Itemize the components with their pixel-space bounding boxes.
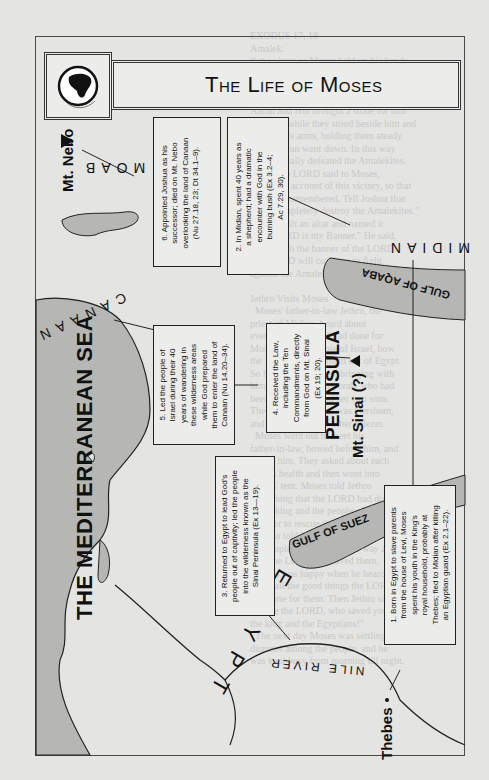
callout-6-text: 6. Appointed Joshua as his successor; di…: [160, 122, 202, 264]
mt-sinai-marker: [350, 355, 360, 367]
label-mt-nebo: Mt. Nebo: [59, 129, 76, 192]
callout-4-text: 4. Received the Law, including the Ten C…: [271, 326, 323, 430]
callout-5: 5. Led the people of Israel during their…: [153, 325, 235, 445]
globe-box: [44, 52, 112, 120]
callout-6: 6. Appointed Joshua as his successor; di…: [153, 117, 221, 267]
callout-3: 3. Returned to Egypt to lead God's peopl…: [215, 456, 275, 616]
label-thebes: Thebes: [378, 707, 395, 760]
callout-3-text: 3. Returned to Egypt to lead God's peopl…: [220, 459, 262, 613]
label-midian: MIDIAN: [385, 240, 470, 256]
callout-4: 4. Received the Law, including the Ten C…: [266, 323, 326, 433]
callout-2-text: 2. In Midian, spent 40 years as a shephe…: [234, 122, 286, 272]
label-mt-sinai: Mt. Sinai (?): [349, 373, 366, 458]
callout-1-text: 1. Born in Egypt to slave parents from t…: [389, 488, 451, 642]
label-moab: MOAB: [80, 160, 145, 176]
thebes-dot: [385, 698, 389, 702]
callout-1: 1. Born in Egypt to slave parents from t…: [384, 485, 456, 645]
label-mediterranean-sea: THE MEDITERRANEAN SEA: [72, 315, 98, 620]
dead-sea: [62, 212, 138, 236]
callout-5-text: 5. Led the people of Israel during their…: [158, 328, 231, 442]
globe-icon: [47, 55, 109, 117]
page-title: The Life of Moses: [205, 72, 383, 98]
callout-2: 2. In Midian, spent 40 years as a shephe…: [227, 117, 289, 275]
